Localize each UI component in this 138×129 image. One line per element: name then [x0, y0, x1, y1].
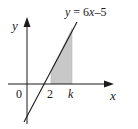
- tick-label-2: 2: [47, 87, 53, 101]
- y-axis-arrow-icon: [24, 17, 31, 27]
- tick-label-k: k: [68, 87, 74, 101]
- x-axis-arrow-icon: [104, 81, 114, 88]
- graph-svg: y x 0 2 k y = 6x–5: [0, 0, 138, 129]
- graph-figure: y x 0 2 k y = 6x–5: [0, 0, 138, 129]
- equation-rest: –5: [93, 5, 106, 19]
- x-axis-label: x: [109, 88, 116, 103]
- origin-label: 0: [16, 87, 22, 101]
- y-axis-label: y: [10, 18, 18, 33]
- equation-eq: = 6: [70, 5, 89, 19]
- equation-label: y = 6x–5: [64, 5, 106, 19]
